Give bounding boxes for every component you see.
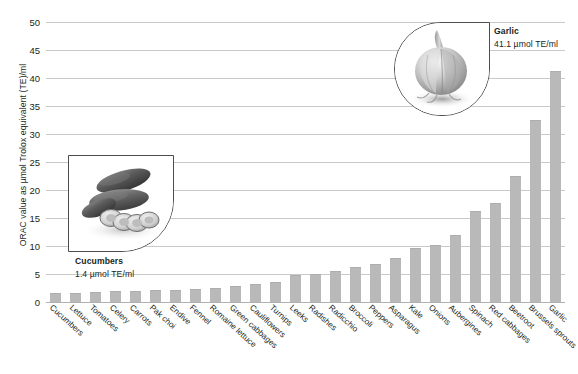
bar bbox=[250, 284, 261, 302]
bar-cell bbox=[246, 22, 266, 302]
cucumbers-callout: Cucumbers 1.4 µmol TE/ml bbox=[75, 256, 134, 279]
y-tick-label-30: 30 bbox=[29, 129, 40, 140]
bar-cell bbox=[545, 22, 565, 302]
y-tick-label-45: 45 bbox=[29, 45, 40, 56]
bar-cell bbox=[286, 22, 306, 302]
y-tick-label-50: 50 bbox=[29, 17, 40, 28]
cucumbers-callout-name: Cucumbers bbox=[75, 256, 134, 266]
bar-cell bbox=[266, 22, 286, 302]
bar bbox=[390, 258, 401, 302]
bar-cell bbox=[46, 22, 66, 302]
bar bbox=[310, 274, 321, 302]
bar bbox=[470, 211, 481, 302]
bar-cell bbox=[505, 22, 525, 302]
cucumbers-photo bbox=[69, 156, 173, 251]
bar bbox=[90, 292, 101, 302]
y-tick-label-10: 10 bbox=[29, 241, 40, 252]
bar bbox=[490, 203, 501, 302]
bar-cell bbox=[326, 22, 346, 302]
bar bbox=[70, 293, 81, 302]
y-tick-label-5: 5 bbox=[35, 269, 40, 280]
cucumbers-callout-value: 1.4 µmol TE/ml bbox=[75, 269, 134, 279]
bar bbox=[330, 271, 341, 302]
bar bbox=[210, 288, 221, 302]
bar bbox=[350, 267, 361, 302]
bar bbox=[230, 286, 241, 302]
y-tick-label-0: 0 bbox=[35, 297, 40, 308]
garlic-callout-name: Garlic bbox=[494, 26, 558, 36]
bar bbox=[410, 248, 421, 302]
bar-cell bbox=[306, 22, 326, 302]
bar bbox=[530, 120, 541, 302]
x-axis-labels: CucumbersLettuceTomatoesCeleryCarrotsPak… bbox=[46, 303, 565, 373]
bar-cell bbox=[346, 22, 366, 302]
bar bbox=[190, 289, 201, 302]
y-tick-label-15: 15 bbox=[29, 213, 40, 224]
garlic-callout-value: 41.1 µmol TE/ml bbox=[494, 39, 558, 49]
bar bbox=[510, 176, 521, 302]
bar-cell bbox=[206, 22, 226, 302]
bar bbox=[370, 264, 381, 302]
bar bbox=[550, 71, 561, 302]
cucumbers-photo-frame bbox=[68, 155, 174, 252]
bar bbox=[50, 293, 61, 302]
bar bbox=[290, 275, 301, 302]
y-tick-label-25: 25 bbox=[29, 157, 40, 168]
garlic-callout: Garlic 41.1 µmol TE/ml bbox=[494, 26, 558, 49]
y-tick-label-40: 40 bbox=[29, 73, 40, 84]
bar-cell bbox=[226, 22, 246, 302]
y-axis-title: ORAC value as µmol Trolox equivalent (TE… bbox=[18, 15, 28, 295]
bar-cell bbox=[186, 22, 206, 302]
garlic-photo-frame bbox=[394, 22, 490, 116]
garlic-photo bbox=[395, 23, 489, 115]
bar bbox=[450, 235, 461, 302]
bar bbox=[170, 290, 181, 302]
x-axis-label: Fennel bbox=[188, 303, 213, 326]
bar bbox=[130, 291, 141, 302]
bar-cell bbox=[525, 22, 545, 302]
y-tick-label-20: 20 bbox=[29, 185, 40, 196]
bar bbox=[270, 282, 281, 302]
bar-cell bbox=[366, 22, 386, 302]
bar bbox=[110, 291, 121, 302]
bar bbox=[430, 245, 441, 302]
y-tick-label-35: 35 bbox=[29, 101, 40, 112]
bar bbox=[150, 290, 161, 302]
